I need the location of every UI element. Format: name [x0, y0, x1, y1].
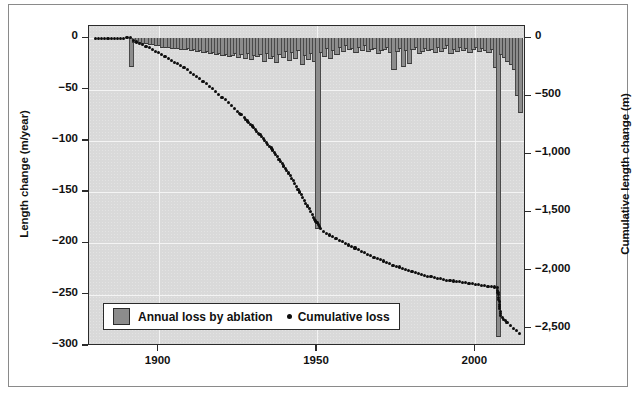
y-axis-right-tick-mark: [525, 37, 531, 39]
y-axis-right-tick-mark: [525, 153, 531, 155]
x-axis-tick-mark: [157, 345, 159, 351]
y-axis-right-tick-label: −2,500: [535, 320, 595, 332]
y-axis-right-title: Cumulative length change (m): [619, 56, 631, 292]
data-point: [239, 113, 242, 116]
y-axis-right-tick-mark: [525, 327, 531, 329]
y-axis-right-tick-label: −2,000: [535, 262, 595, 274]
legend-swatch-annual-loss: [113, 308, 130, 325]
y-axis-right-tick-label: −1,500: [535, 203, 595, 215]
x-axis-tick-label: 1950: [286, 354, 346, 366]
y-axis-right-tick-mark: [525, 269, 531, 271]
y-axis-right-tick-mark: [525, 95, 531, 97]
y-axis-right-tick-label: 0: [535, 29, 595, 41]
legend-label-cumulative-loss: Cumulative loss: [298, 310, 390, 324]
x-axis-tick-label: 2000: [444, 354, 504, 366]
scatter-series-cumulative-loss: [89, 26, 524, 344]
y-axis-right-tick-mark: [525, 211, 531, 213]
data-point: [509, 324, 512, 327]
y-axis-left-tick-label: −50: [28, 81, 78, 93]
y-axis-left-tick-label: −300: [28, 337, 78, 349]
y-axis-left-tick-label: −250: [28, 286, 78, 298]
y-axis-left-title: Length change (m/year): [18, 64, 30, 284]
chart-legend: Annual loss by ablation Cumulative loss: [103, 303, 400, 330]
legend-label-annual-loss: Annual loss by ablation: [138, 310, 273, 324]
figure-container: Length change (m/year) Cumulative length…: [0, 0, 636, 401]
x-axis-tick-mark: [474, 345, 476, 351]
plot-area: [88, 25, 525, 345]
x-axis-tick-mark: [315, 345, 317, 351]
y-axis-left-tick-label: 0: [28, 29, 78, 41]
data-point: [518, 332, 521, 335]
legend-dot-cumulative-loss: [287, 314, 292, 319]
x-axis-tick-label: 1900: [128, 354, 188, 366]
y-axis-left-tick-label: −200: [28, 234, 78, 246]
data-point: [505, 321, 508, 324]
y-axis-left-tick-label: −100: [28, 132, 78, 144]
y-axis-right-tick-label: −1,000: [535, 145, 595, 157]
y-axis-right-tick-label: −500: [535, 87, 595, 99]
y-axis-left-tick-label: −150: [28, 183, 78, 195]
